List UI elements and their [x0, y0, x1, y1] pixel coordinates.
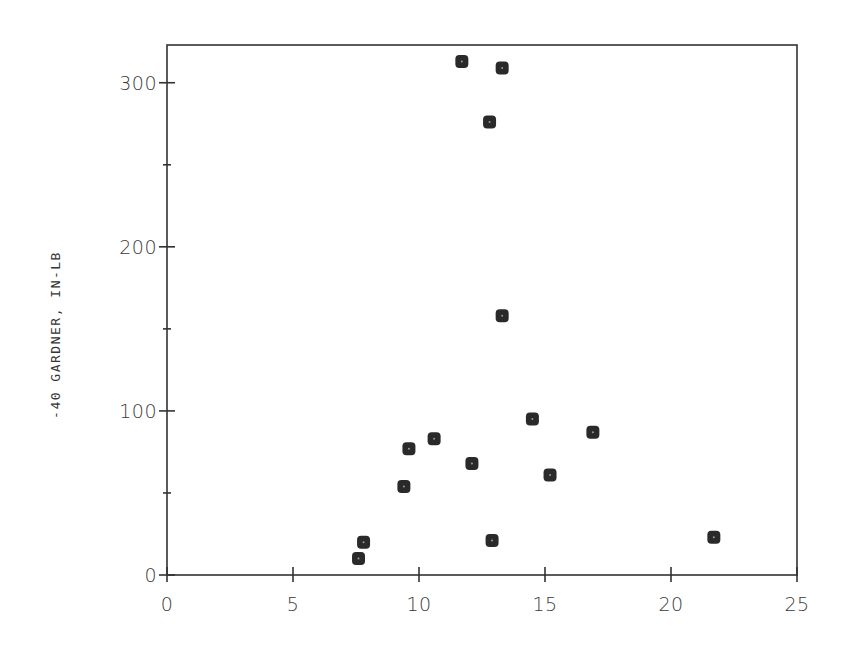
data-point-marker	[707, 531, 720, 544]
data-point-marker	[428, 432, 441, 445]
x-tick-label: 25	[784, 593, 809, 615]
data-point-marker	[397, 480, 410, 493]
data-point-marker	[465, 457, 478, 470]
x-tick-label: 15	[532, 593, 557, 615]
data-points	[352, 55, 720, 565]
data-point-marker	[483, 116, 496, 129]
x-tick-label: 10	[406, 593, 431, 615]
data-point-marker	[544, 468, 557, 481]
data-point-marker	[352, 552, 365, 565]
data-point-marker	[526, 413, 539, 426]
data-point-marker	[486, 534, 499, 547]
x-tick-label: 5	[287, 593, 300, 615]
y-axis-label: -40 GARDNER, IN-LB	[48, 251, 63, 419]
scatter-chart: 0510152025 0100200300 -40 GARDNER, IN-LB	[0, 0, 852, 659]
data-point-marker	[402, 442, 415, 455]
x-tick-label: 0	[161, 593, 174, 615]
plot-border	[167, 45, 797, 575]
plot-frame	[167, 45, 797, 575]
y-tick-label: 200	[119, 236, 157, 258]
data-point-marker	[496, 309, 509, 322]
x-tick-label: 20	[658, 593, 683, 615]
data-point-marker	[496, 61, 509, 74]
y-tick-label: 0	[144, 564, 157, 586]
y-tick-label: 300	[119, 72, 157, 94]
y-tick-label: 100	[119, 400, 157, 422]
data-point-marker	[586, 426, 599, 439]
data-point-marker	[357, 536, 370, 549]
data-point-marker	[455, 55, 468, 68]
